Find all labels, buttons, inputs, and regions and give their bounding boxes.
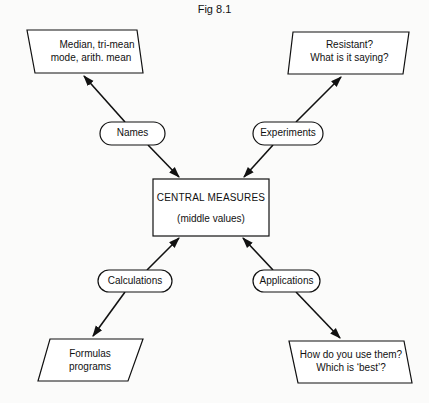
pill-label-calculations: Calculations <box>98 270 172 292</box>
leaf-line: Resistant? <box>292 38 407 51</box>
arrow-names-to-center <box>148 145 179 177</box>
arrow-calculations-to-leaf <box>93 292 125 336</box>
leaf-text-calculations: Formulas programs <box>44 347 136 373</box>
arrow-applications-to-leaf <box>296 292 340 338</box>
leaf-line: What is it saying? <box>292 51 407 64</box>
leaf-line: Which is ‘best’? <box>293 361 409 374</box>
leaf-text-names: Median, tri-mean mode, arith. mean <box>38 38 144 64</box>
leaf-line: mode, arith. mean <box>38 51 144 64</box>
central-subtitle: (middle values) <box>153 213 269 224</box>
pill-label-experiments: Experiments <box>253 122 323 144</box>
leaf-line: How do you use them? <box>293 348 409 361</box>
central-box <box>153 179 269 236</box>
central-title: CENTRAL MEASURES <box>153 192 269 203</box>
leaf-line: Formulas <box>44 347 136 360</box>
arrow-applications-to-center <box>243 238 273 270</box>
pill-label-applications: Applications <box>253 270 320 292</box>
pill-label-names: Names <box>100 122 165 144</box>
arrow-names-to-leaf <box>84 76 125 122</box>
arrow-experiments-to-center <box>244 145 273 177</box>
leaf-text-applications: How do you use them? Which is ‘best’? <box>293 348 409 374</box>
leaf-line: programs <box>44 360 136 373</box>
figure-title: Fig 8.1 <box>0 3 429 15</box>
leaf-text-experiments: Resistant? What is it saying? <box>292 38 407 64</box>
arrow-calculations-to-center <box>147 238 179 270</box>
leaf-line: Median, tri-mean <box>38 38 144 51</box>
arrow-experiments-to-leaf <box>296 77 341 122</box>
